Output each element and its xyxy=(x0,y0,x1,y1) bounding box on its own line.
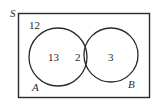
venn-diagram: S 12 13 2 3 A B xyxy=(0,0,159,104)
region-only-a-value: 13 xyxy=(48,51,60,63)
set-a-label: A xyxy=(31,81,39,93)
set-b-label: B xyxy=(128,78,135,90)
region-only-b-value: 3 xyxy=(108,51,114,63)
region-outside-value: 12 xyxy=(29,19,40,31)
region-a-and-b-value: 2 xyxy=(75,51,81,63)
universe-label: S xyxy=(10,7,16,19)
